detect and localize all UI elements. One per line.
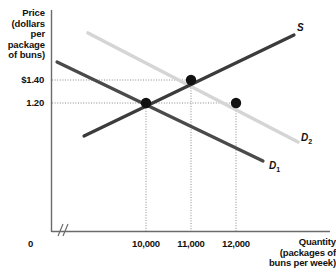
y-axis-title: Price (dollars per package of buns) [0, 8, 45, 61]
y-axis-title-line-1: Price [0, 8, 45, 19]
curve-label-demand-1-subscript: 1 [276, 166, 280, 173]
x-tick-label-11000: 11,000 [168, 238, 214, 249]
x-tick-label-10000: 10,000 [123, 238, 169, 249]
x-axis-title-line-1: Quantity [246, 237, 336, 248]
curve-label-demand-1: D1 [269, 160, 280, 173]
curve-demand-1 [57, 62, 263, 161]
curve-label-demand-2: D2 [301, 132, 312, 145]
marker-initial-equilibrium [141, 98, 151, 108]
marker-quantity-demanded-old-price [231, 98, 241, 108]
curve-label-supply: S [297, 22, 304, 33]
x-axis-title: Quantity (packages of buns per week) [246, 237, 336, 269]
origin-label: 0 [28, 238, 33, 249]
y-tick-label-140: $1.40 [0, 74, 44, 85]
y-tick-label-120: 1.20 [0, 97, 44, 108]
y-axis-title-line-5: of buns) [0, 50, 45, 61]
curve-supply [84, 35, 294, 136]
x-axis-title-line-3: buns per week) [246, 258, 336, 269]
supply-demand-chart: Price (dollars per package of buns) $1.4… [0, 0, 336, 279]
axis-break-icon [58, 224, 68, 236]
curve-label-supply-text: S [297, 22, 304, 33]
marker-new-equilibrium [186, 75, 196, 85]
axes [52, 10, 331, 236]
curve-label-demand-2-subscript: 2 [308, 138, 312, 145]
